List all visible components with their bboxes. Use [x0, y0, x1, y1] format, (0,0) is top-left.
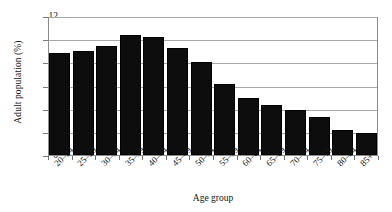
x-axis-tick-label: 65–69: [264, 145, 287, 168]
x-axis-tick-label: 35–39: [123, 145, 146, 168]
x-axis-tick-label: 40–44: [146, 145, 169, 168]
x-axis-tick-label: 75–79: [311, 145, 334, 168]
x-axis-tick-label: 85+: [358, 151, 375, 168]
bar-chart: Adult population (%) 024681012 20–2425–2…: [0, 0, 392, 212]
x-axis-tick-label: 80–84: [335, 145, 358, 168]
x-axis-tick-label: 70–74: [288, 145, 311, 168]
x-axis-tick-label: 45–49: [170, 145, 193, 168]
x-axis-tick-label: 30–34: [99, 145, 122, 168]
x-axis-tick-label: 20–24: [52, 145, 75, 168]
x-axis-tick-label: 25–29: [75, 145, 98, 168]
x-axis-tick-label: 55–59: [217, 145, 240, 168]
x-axis-tick-labels: 20–2425–2930–3435–3940–4445–4950–5455–59…: [0, 0, 392, 212]
x-axis-title: Age group: [48, 193, 378, 203]
x-axis-tick-label: 60–64: [240, 145, 263, 168]
x-axis-tick-label: 50–54: [193, 145, 216, 168]
